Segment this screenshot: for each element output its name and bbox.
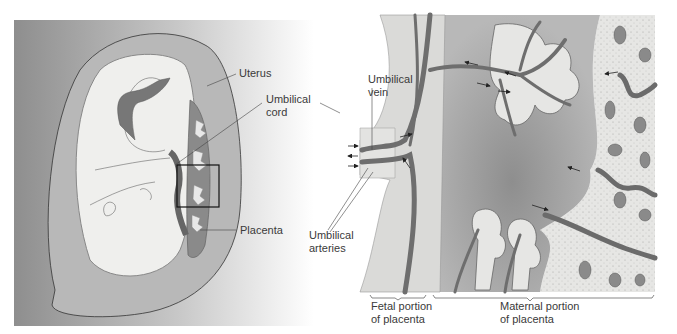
label-umbilical-cord: Umbilical cord <box>266 93 311 119</box>
leader-cord-to-detail <box>320 103 340 113</box>
label-umbilical-vein: Umbilical vein <box>368 73 413 99</box>
label-uterus: Uterus <box>239 67 271 80</box>
label-maternal-portion: Maternal portion of placenta <box>500 300 580 326</box>
leader-umbilical-artery-2 <box>330 172 373 232</box>
umbilical-cord-stub <box>360 128 395 178</box>
label-placenta: Placenta <box>240 224 283 237</box>
right-panel-placenta-detail <box>328 15 655 301</box>
left-panel-uterus-illustration <box>14 20 314 326</box>
label-fetal-portion: Fetal portion of placenta <box>371 300 432 326</box>
leader-umbilical-artery-1 <box>328 168 368 230</box>
placenta-diagram <box>0 0 677 334</box>
label-umbilical-arteries: Umbilical arteries <box>309 229 354 255</box>
